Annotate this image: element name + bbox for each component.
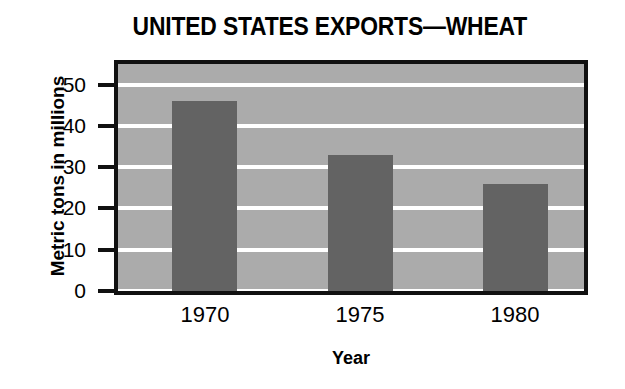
- y-tick-mark: [98, 124, 114, 128]
- bar: [483, 184, 548, 291]
- bar-chart-figure: UNITED STATES EXPORTS—WHEAT Metric tons …: [0, 0, 625, 389]
- gridline: [118, 83, 584, 87]
- y-tick-label: 0: [40, 280, 86, 301]
- y-axis-tick-labels: 50 40 30 20 10 0: [40, 0, 86, 389]
- plot-inner: [118, 64, 584, 291]
- y-tick-label: 20: [40, 197, 86, 218]
- y-tick-label: 50: [40, 74, 86, 95]
- x-tick-label: 1980: [455, 303, 575, 327]
- y-tick-mark: [98, 206, 114, 210]
- x-axis-title: Year: [114, 348, 588, 369]
- x-tick-label: 1970: [145, 303, 265, 327]
- bar: [172, 101, 237, 291]
- y-tick-mark: [98, 248, 114, 252]
- y-tick-mark: [98, 289, 114, 293]
- y-tick-label: 40: [40, 115, 86, 136]
- y-tick-label: 10: [40, 239, 86, 260]
- plot-area: [114, 60, 588, 295]
- chart-title: UNITED STATES EXPORTS—WHEAT: [133, 11, 494, 41]
- x-tick-label: 1975: [300, 303, 420, 327]
- y-tick-label: 30: [40, 156, 86, 177]
- bar: [328, 155, 393, 291]
- y-tick-mark: [98, 83, 114, 87]
- y-tick-mark: [98, 165, 114, 169]
